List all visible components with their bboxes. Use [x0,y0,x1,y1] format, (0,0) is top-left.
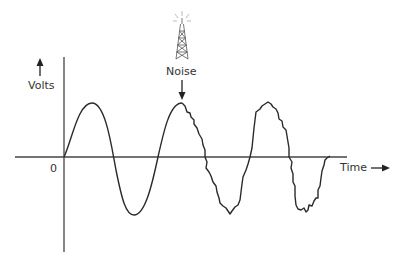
radio-tower-icon [173,11,191,59]
volts-arrow-icon [37,58,44,76]
signal-diagram [0,0,408,264]
noisy-signal-line [182,102,330,214]
time-arrow-icon [371,165,390,172]
volts-label: Volts [28,80,55,91]
clean-signal-line [64,103,182,215]
noise-arrow-icon [179,80,186,100]
time-label: Time [340,162,367,173]
noise-label: Noise [166,66,197,77]
origin-label: 0 [50,163,57,174]
